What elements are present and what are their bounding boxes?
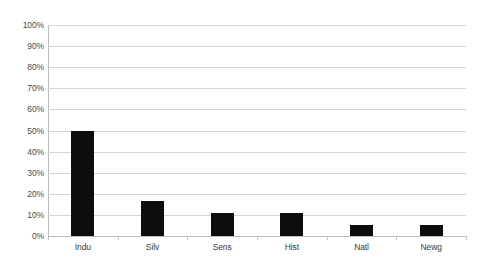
x-axis-category-label: Natl [327,243,397,252]
bar[interactable] [141,201,164,236]
bar-slot [118,25,188,236]
y-axis-tick-label: 60% [8,105,44,114]
y-axis-tick-label: 50% [8,127,44,136]
x-axis-category-label: Indu [48,243,118,252]
bar[interactable] [420,225,443,236]
x-axis-category-label: Silv [118,243,188,252]
x-axis-category-label: Sens [187,243,257,252]
bar-slot [187,25,257,236]
y-axis-tick-label: 40% [8,148,44,157]
x-axis-tick [187,236,188,240]
x-axis-tick [118,236,119,240]
bar-slot [48,25,118,236]
y-axis-tick-label: 90% [8,42,44,51]
plot-area [48,25,466,236]
y-axis-tick-label: 30% [8,169,44,178]
y-axis-tick-label: 0% [8,232,44,241]
y-axis-tick-label: 70% [8,84,44,93]
x-axis-category-label: Newg [396,243,466,252]
bar[interactable] [211,213,234,236]
x-axis-tick [257,236,258,240]
x-axis-tick [466,236,467,240]
bar-slot [257,25,327,236]
bar[interactable] [280,213,303,236]
x-axis-category-label: Hist [257,243,327,252]
bar[interactable] [71,131,94,237]
x-axis-tick [48,236,49,240]
x-axis-tick [396,236,397,240]
y-axis-tick-labels: 100%90%80%70%60%50%40%30%20%10%0% [0,0,44,272]
bar-slot [327,25,397,236]
bar-slot [396,25,466,236]
y-axis-tick-label: 100% [8,21,44,30]
y-axis-tick-label: 80% [8,63,44,72]
y-axis-tick-label: 20% [8,190,44,199]
bar-chart: 100%90%80%70%60%50%40%30%20%10%0% InduSi… [0,0,477,272]
x-axis-tick [327,236,328,240]
bar[interactable] [350,225,373,236]
y-axis-tick-label: 10% [8,211,44,220]
